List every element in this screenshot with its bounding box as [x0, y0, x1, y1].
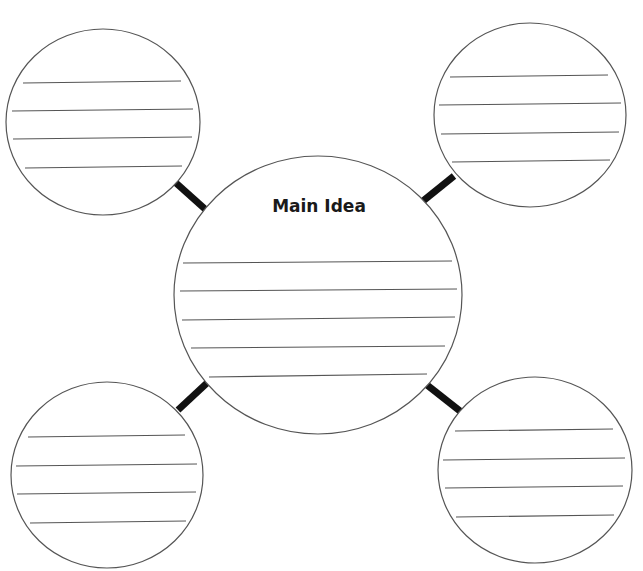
detail-ellipse [434, 23, 626, 207]
detail-circle-bottom-left [11, 382, 203, 568]
connector-bottom-right [427, 385, 460, 411]
detail-ellipse [6, 29, 200, 215]
detail-circle-top-right [434, 23, 626, 207]
detail-circle-bottom-right [438, 377, 632, 563]
main-idea-label: Main Idea [272, 196, 366, 216]
detail-ellipse [11, 382, 203, 568]
connector-top-right [423, 176, 454, 201]
main-idea-circle: Main Idea [174, 156, 462, 434]
connector-bottom-left [178, 383, 207, 410]
connector-top-left [176, 183, 205, 209]
concept-web-diagram: Main Idea [0, 0, 643, 571]
detail-ellipse [438, 377, 632, 563]
detail-circle-top-left [6, 29, 200, 215]
